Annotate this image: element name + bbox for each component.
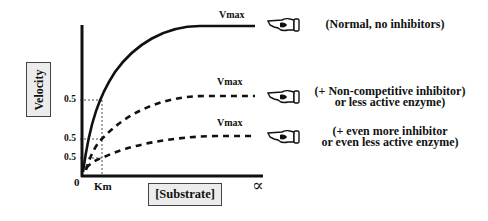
description-line: or even less active enzyme)	[310, 137, 470, 148]
infinity-label: ∝	[252, 175, 264, 196]
curve-more-inhibitor	[86, 136, 255, 168]
description-normal: (Normal, no inhibitors)	[320, 19, 450, 30]
pointing-hand-icon	[266, 87, 302, 105]
x-axis-label-box: [Substrate]	[148, 183, 222, 206]
y-axis-label-box: Velocity	[26, 62, 51, 117]
origin-label: 0	[74, 176, 80, 188]
y-axis-label: Velocity	[31, 69, 46, 110]
pointing-hand-icon	[266, 15, 302, 33]
half-vmax-tick-normal: 0.5	[64, 94, 76, 104]
description-line: or less active enzyme)	[310, 97, 470, 108]
km-label: Km	[94, 180, 112, 192]
half-vmax-tick-non-competitive: 0.5	[64, 133, 76, 143]
vmax-label-non-competitive: Vmax	[217, 76, 243, 87]
description-line: (Normal, no inhibitors)	[320, 19, 450, 30]
x-axis-label: [Substrate]	[155, 187, 215, 202]
curve-non-competitive	[86, 96, 255, 170]
description-non-competitive: (+ Non-competitive inhibitor) or less ac…	[310, 86, 470, 108]
vmax-label-normal: Vmax	[219, 9, 245, 20]
description-more-inhibitor: (+ even more inhibitor or even less acti…	[310, 126, 470, 148]
pointing-hand-icon	[266, 127, 302, 145]
vmax-label-more-inhibitor: Vmax	[217, 117, 243, 128]
half-vmax-tick-more-inhibitor: 0.5	[64, 152, 76, 162]
